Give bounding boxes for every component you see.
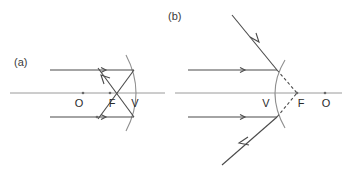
panel-b-reflected-ray-upper: [232, 15, 277, 70]
panel-b-virtual-ray-lower: [277, 93, 297, 117]
panel-b-point-marker-F: [296, 92, 299, 95]
panel-a-reflected-ray-upper: [98, 70, 134, 119]
panel-b-reflected-ray-lower-arrowhead: [239, 137, 249, 145]
panel-a-point-marker-F: [109, 92, 112, 95]
panel-b-label-V: V: [262, 97, 270, 109]
panel-a-point-marker-lower-ray: [96, 116, 99, 119]
panel-b-label-F: F: [298, 97, 305, 109]
panel-b-reflected-ray-lower: [222, 117, 277, 165]
panel-a-label-V: V: [131, 97, 139, 109]
optics-ray-diagram-figure: (a) O F V (b): [0, 0, 351, 175]
panel-a-label-F: F: [109, 97, 116, 109]
panel-b-label: (b): [168, 10, 181, 22]
panel-a: (a) O F V: [10, 55, 165, 131]
panel-b-point-marker-O: [324, 92, 327, 95]
panel-b-reflected-ray-upper-arrowhead: [250, 33, 259, 42]
panel-b-virtual-ray-upper: [277, 70, 297, 93]
panel-a-point-marker-O: [82, 92, 85, 95]
panel-b-label-O: O: [322, 97, 331, 109]
panel-b: (b) V F O: [168, 10, 342, 165]
panel-a-label-O: O: [75, 97, 84, 109]
panel-a-label: (a): [14, 56, 27, 68]
